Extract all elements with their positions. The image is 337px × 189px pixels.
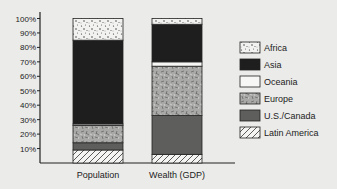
y-tick-label: 80% [20, 43, 36, 52]
legend-label: Oceania [264, 77, 298, 87]
legend-swatch [240, 59, 260, 70]
y-tick-label: 10% [20, 145, 36, 154]
y-tick-label: 90% [20, 29, 36, 38]
bar-segment-asia [73, 40, 123, 124]
legend: AfricaAsiaOceaniaEuropeU.S./CanadaLatin … [240, 42, 319, 138]
legend-swatch [240, 110, 260, 121]
bar-segment-oceania [152, 62, 202, 66]
legend-label: Asia [264, 60, 282, 70]
x-category-label: Wealth (GDP) [149, 170, 205, 180]
bar-segment-u-s-canada [73, 143, 123, 150]
legend-swatch [240, 93, 260, 104]
legend-label: Europe [264, 94, 293, 104]
x-category-label: Population [77, 170, 120, 180]
legend-swatch [240, 76, 260, 87]
y-tick-label: 20% [20, 130, 36, 139]
stacked-bar-chart: 10%20%30%40%50%60%70%80%90%100% Populati… [0, 0, 337, 189]
y-tick-label: 100% [16, 15, 36, 24]
bar-segment-africa [73, 19, 123, 41]
legend-swatch [240, 42, 260, 53]
y-tick-label: 40% [20, 101, 36, 110]
bar-segment-u-s-canada [152, 115, 202, 154]
legend-label: Africa [264, 43, 287, 53]
bar-segment-africa [152, 19, 202, 25]
bar-segment-europe [73, 125, 123, 142]
bar-segment-latin-america [73, 150, 123, 163]
x-axis-labels: PopulationWealth (GDP) [77, 170, 205, 180]
bar-segment-asia [152, 24, 202, 62]
legend-swatch [240, 127, 260, 138]
y-tick-label: 60% [20, 72, 36, 81]
y-tick-label: 30% [20, 116, 36, 125]
y-tick-label: 50% [20, 87, 36, 96]
legend-label: Latin America [264, 128, 319, 138]
bars [73, 19, 202, 164]
bar-segment-latin-america [152, 154, 202, 163]
bar-segment-europe [152, 66, 202, 115]
y-tick-label: 70% [20, 58, 36, 67]
legend-label: U.S./Canada [264, 111, 316, 121]
